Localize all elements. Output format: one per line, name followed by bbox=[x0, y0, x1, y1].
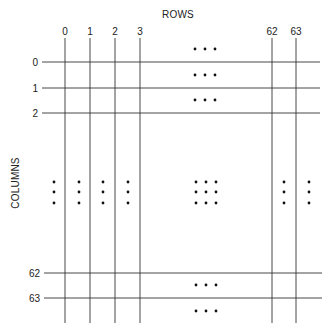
horizontal-lines bbox=[42, 62, 322, 298]
column-label-2: 2 bbox=[112, 26, 118, 37]
rows-axis-title: ROWS bbox=[162, 9, 194, 20]
column-label-1: 1 bbox=[87, 26, 93, 37]
vertical-lines bbox=[65, 38, 296, 323]
center-ellipsis-dots bbox=[195, 181, 218, 205]
column-label-62: 62 bbox=[266, 26, 278, 37]
columns-axis-title: COLUMNS bbox=[10, 157, 21, 209]
row-label-0: 0 bbox=[32, 57, 38, 68]
column-label-3: 3 bbox=[137, 26, 143, 37]
grid-diagram: ROWS COLUMNS 0 1 2 3 62 63 0 1 2 62 63 bbox=[0, 0, 332, 331]
row-label-62: 62 bbox=[29, 268, 41, 279]
row-label-63: 63 bbox=[29, 293, 41, 304]
column-label-63: 63 bbox=[290, 26, 302, 37]
column-label-0: 0 bbox=[62, 26, 68, 37]
row-label-2: 2 bbox=[32, 108, 38, 119]
row-label-1: 1 bbox=[32, 83, 38, 94]
